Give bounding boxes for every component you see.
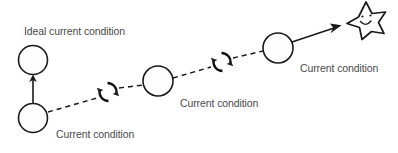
label-current-condition-2: Current condition xyxy=(180,97,258,109)
vertical-up-arrow xyxy=(29,75,37,104)
star-eye-left xyxy=(361,15,363,17)
label-ideal-current-condition: Ideal current condition xyxy=(24,25,125,37)
pdca-cycle-icon-2 xyxy=(211,53,233,71)
label-current-condition-1: Current condition xyxy=(56,128,134,140)
diagram-canvas: Ideal current condition Current conditio… xyxy=(0,0,398,153)
goal-arrow xyxy=(292,23,342,42)
label-current-condition-3: Current condition xyxy=(300,62,378,74)
current-condition-node-2 xyxy=(143,66,173,96)
star-goal-icon xyxy=(347,2,386,40)
star-eye-right xyxy=(369,14,371,16)
current-condition-node-1 xyxy=(19,104,48,133)
pdca-cycle-icon-1 xyxy=(97,83,119,101)
current-condition-node-3 xyxy=(263,33,293,63)
ideal-current-condition-node xyxy=(19,46,48,75)
